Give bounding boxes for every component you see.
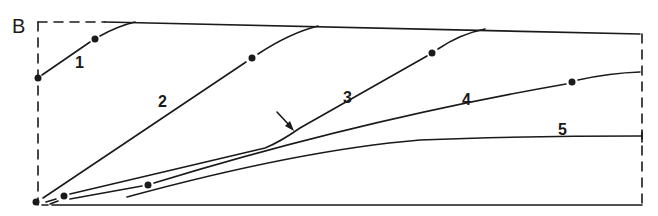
curve-label-1: 1: [75, 55, 84, 71]
curve-1: [42, 22, 135, 75]
curve-label-3: 3: [343, 90, 352, 106]
frame-top-solid: [105, 22, 640, 34]
point-curve3-mid: [429, 50, 436, 57]
point-curve1-start: [35, 75, 42, 82]
curve-4: [70, 72, 640, 199]
point-curve1-mid: [92, 36, 99, 43]
point-curve3-start: [61, 193, 68, 200]
curve-label-4: 4: [462, 92, 471, 108]
point-origin: [33, 199, 40, 206]
origin-stub: [46, 199, 58, 204]
point-curve4-early: [145, 182, 152, 189]
curve-label-5: 5: [558, 122, 567, 138]
point-curve4-late: [569, 79, 576, 86]
diagram-figure: B 1 2 3 4 5: [0, 0, 658, 216]
curve-label-2: 2: [158, 94, 167, 110]
panel-label: B: [12, 16, 25, 36]
diagram-canvas: [0, 0, 658, 216]
point-curve2-mid: [249, 55, 256, 62]
curve-5: [127, 136, 642, 197]
